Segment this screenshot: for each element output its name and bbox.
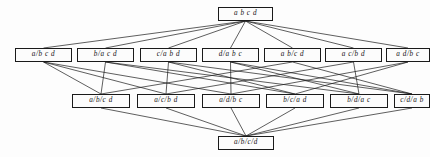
lattice-node-a-b-c-d: a/b/c/d [218, 136, 274, 150]
lattice-edge [166, 62, 354, 94]
lattice-node-b-d-ac: b/d/a c [330, 94, 388, 108]
lattice-node-a-bcd: a/b c d [15, 48, 72, 62]
lattice-node-label: b/a c d [94, 51, 117, 58]
lattice-node-abcd: a b c d [218, 7, 273, 21]
lattice-node-c-abd: c/a b d [140, 48, 197, 62]
lattice-node-ab-cd: a b/c d [264, 48, 321, 62]
lattice-edge [246, 108, 412, 136]
lattice-edge [231, 62, 360, 94]
lattice-node-label: c/a b d [157, 51, 180, 58]
lattice-edge [44, 62, 232, 94]
lattice-node-label: a c/b d [342, 51, 365, 58]
lattice-edge [101, 62, 106, 94]
lattice-edge [246, 108, 359, 136]
lattice-node-label: a b c d [234, 10, 257, 17]
lattice-node-b-acd: b/a c d [77, 48, 134, 62]
lattice-edge [246, 21, 409, 48]
lattice-edge [246, 21, 293, 48]
lattice-node-label: a b/c d [281, 51, 304, 58]
lattice-edge [106, 21, 246, 48]
lattice-node-b-c-ad: b/c/a d [266, 94, 324, 108]
lattice-node-label: a/b/c d [89, 97, 113, 104]
edge-layer [0, 0, 430, 157]
lattice-edge [169, 62, 413, 94]
lattice-node-a-d-bc: a/d/b c [202, 94, 260, 108]
lattice-edge [354, 62, 360, 94]
lattice-edge [44, 62, 167, 94]
lattice-node-d-abc: d/a b c [202, 48, 259, 62]
lattice-edge [231, 62, 408, 94]
lattice-edge [246, 108, 295, 136]
lattice-edge [44, 21, 246, 48]
lattice-node-a-b-cd: a/b/c d [72, 94, 130, 108]
lattice-edge [231, 62, 413, 94]
lattice-edge [44, 62, 102, 94]
lattice-edge [169, 62, 296, 94]
lattice-edge [169, 21, 246, 48]
lattice-edge [293, 62, 413, 94]
lattice-edge [106, 62, 360, 94]
lattice-node-label: a/b/c/d [234, 139, 258, 146]
lattice-node-label: b/d/a c [347, 97, 371, 104]
lattice-edge [101, 108, 246, 136]
lattice-edge [231, 108, 246, 136]
lattice-node-label: a/b c d [32, 51, 55, 58]
lattice-edge [246, 21, 354, 48]
lattice-node-label: a/d/b c [219, 97, 243, 104]
lattice-edge [166, 108, 246, 136]
lattice-node-label: a/c/b d [154, 97, 178, 104]
lattice-edge [166, 62, 169, 94]
lattice-edge [231, 62, 232, 94]
lattice-node-label: a d/b c [396, 51, 419, 58]
lattice-edge [231, 21, 246, 48]
lattice-node-label: d/a b c [219, 51, 242, 58]
lattice-node-label: c/d/a b [400, 97, 424, 104]
lattice-edge [101, 62, 293, 94]
lattice-node-c-d-ab: c/d/a b [394, 94, 430, 108]
lattice-node-ad-bc: a d/b c [386, 48, 430, 62]
partition-lattice-diagram: a b c da/b c db/a c dc/a b dd/a b ca b/c… [0, 0, 430, 157]
lattice-edge [106, 62, 296, 94]
lattice-node-ac-bd: a c/b d [325, 48, 382, 62]
lattice-edge [295, 62, 408, 94]
lattice-node-label: b/c/a d [283, 97, 307, 104]
lattice-node-a-c-bd: a/c/b d [137, 94, 195, 108]
